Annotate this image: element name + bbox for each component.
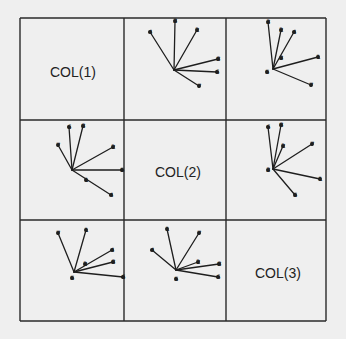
point-label: 6 [67, 123, 71, 130]
ray-8 [174, 59, 218, 70]
ray-3 [268, 22, 273, 69]
ray-2 [174, 30, 197, 70]
point-label: 2 [281, 142, 285, 149]
point-label: 4 [150, 246, 154, 253]
ray-8 [72, 126, 83, 170]
inner-point-label: 5 [265, 68, 269, 75]
ray-4 [150, 32, 174, 70]
ray-7 [174, 70, 199, 86]
star-panel-r2-c0: 7148625 [56, 226, 125, 281]
point-label: 3 [173, 17, 177, 24]
star-panel-r2-c1: 4172865 [150, 225, 221, 282]
diagonal-label-col1: COL(1) [50, 64, 96, 80]
star-panel-r1-c2: 6827153 [266, 121, 322, 198]
diagonal-label-col3: COL(3) [255, 265, 301, 281]
point-label: 7 [197, 229, 201, 236]
ray-8 [74, 262, 113, 272]
inner-point-label: 3 [266, 166, 270, 173]
point-label: 6 [215, 68, 219, 75]
star-panel-r0-c2: 3241735 [265, 18, 320, 88]
point-label: 8 [81, 122, 85, 129]
point-label: 4 [148, 28, 152, 35]
point-label: 2 [279, 26, 283, 33]
point-label: 4 [110, 246, 114, 253]
point-label: 1 [318, 175, 322, 182]
point-label: 2 [195, 26, 199, 33]
inner-point-label: 1 [84, 176, 88, 183]
point-label: 1 [84, 226, 88, 233]
ray-6 [268, 127, 273, 169]
point-label: 8 [217, 260, 221, 267]
ray-3 [174, 21, 175, 70]
point-label: 7 [197, 82, 201, 89]
ray-6 [176, 270, 218, 277]
ray-7 [58, 233, 74, 272]
point-label: 8 [216, 55, 220, 62]
point-label: 7 [310, 140, 314, 147]
point-label: 7 [309, 81, 313, 88]
inner-point-label: 5 [174, 275, 178, 282]
point-label: 6 [216, 273, 220, 280]
point-label: 6 [266, 123, 270, 130]
star-plot-matrix: COL(1) COL(2) COL(3) 4328673241735768254… [0, 0, 346, 339]
point-label: 1 [165, 225, 169, 232]
star-panel-r0-c1: 432867 [148, 17, 220, 89]
ray-2 [72, 147, 113, 170]
ray-4 [72, 170, 111, 195]
ray-6 [174, 70, 217, 72]
point-label: 5 [293, 191, 297, 198]
point-label: 2 [111, 143, 115, 150]
point-label: 8 [111, 258, 115, 265]
diagonal-label-col2: COL(2) [155, 164, 201, 180]
point-label: 6 [121, 273, 125, 280]
ray-7 [273, 69, 311, 85]
diagonal-labels: COL(1) COL(2) COL(3) [50, 64, 301, 281]
point-label: 3 [266, 18, 270, 25]
point-label: 2 [196, 258, 200, 265]
point-label: 5 [120, 166, 124, 173]
star-panels: 4328673241735768254168271537148625417286… [56, 17, 322, 282]
ray-8 [273, 125, 281, 169]
inner-point-label: 2 [83, 260, 87, 267]
inner-point-label: 5 [70, 274, 74, 281]
point-label: 7 [56, 229, 60, 236]
point-label: 4 [292, 28, 296, 35]
point-label: 7 [56, 141, 60, 148]
point-label: 8 [279, 121, 283, 128]
point-label: 4 [109, 191, 113, 198]
inner-point-label: 3 [279, 54, 283, 61]
point-label: 1 [316, 53, 320, 60]
ray-6 [74, 272, 123, 277]
ray-6 [69, 127, 72, 170]
star-panel-r1-c0: 7682541 [56, 122, 124, 198]
